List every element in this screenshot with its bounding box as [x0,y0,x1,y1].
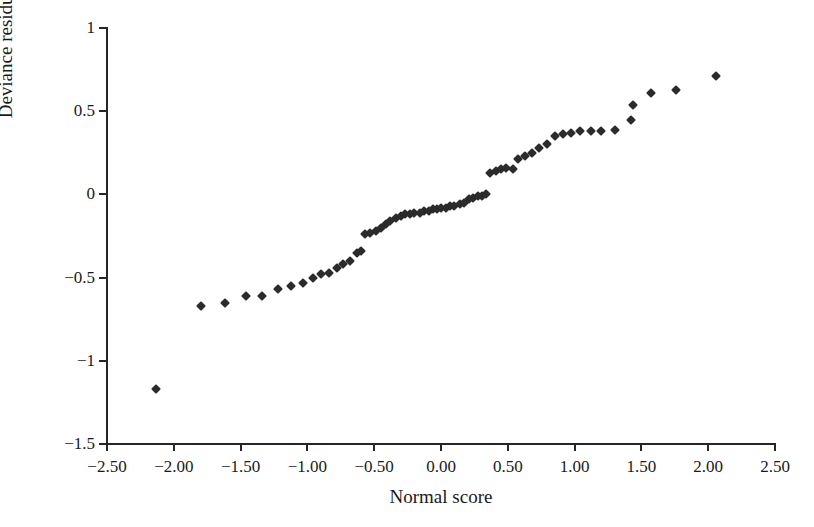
data-point [566,128,576,138]
x-tick-mark [507,444,509,451]
data-point [646,88,656,98]
y-tick-label: 0.5 [51,102,95,119]
x-tick-label: 1.50 [606,458,676,475]
y-tick-mark [99,27,106,29]
x-tick-label: 0.50 [473,458,543,475]
x-tick-mark [173,444,175,451]
data-point [558,130,568,140]
x-tick-label: −2.00 [139,458,209,475]
deviance-residual-qq-plot: −1.5−1−0.500.51 −2.50−2.00−1.50−1.00−0.5… [0,0,814,527]
data-point [220,298,230,308]
x-tick-mark [306,444,308,451]
data-point [610,125,620,135]
y-axis-title: Deviance residual [0,0,15,150]
y-tick-mark [99,110,106,112]
data-point [575,126,585,136]
y-tick-mark [99,193,106,195]
y-tick-label: 0 [51,185,95,202]
y-tick-label: −1 [51,352,95,369]
data-point [711,71,721,81]
y-tick-label: 1 [51,19,95,36]
x-tick-mark [240,444,242,451]
y-tick-mark [99,443,106,445]
x-tick-label: −1.50 [206,458,276,475]
x-tick-label: 2.50 [740,458,810,475]
x-tick-mark [373,444,375,451]
x-tick-mark [440,444,442,451]
data-point [596,126,606,136]
x-tick-label: −1.00 [272,458,342,475]
data-point [257,291,267,301]
data-point [151,384,161,394]
x-tick-mark [574,444,576,451]
x-tick-label: 0.00 [406,458,476,475]
x-tick-label: 2.00 [673,458,743,475]
x-tick-mark [640,444,642,451]
x-tick-label: −2.50 [72,458,142,475]
y-tick-mark [99,360,106,362]
x-axis-title: Normal score [107,487,775,506]
y-tick-mark [99,277,106,279]
data-point [508,164,518,174]
y-tick-label: −1.5 [51,435,95,452]
y-tick-label: −0.5 [51,269,95,286]
data-point [241,291,251,301]
data-point [273,284,283,294]
data-point [628,100,638,110]
x-tick-mark [707,444,709,451]
data-point [586,126,596,136]
data-point [196,301,206,311]
x-tick-label: 1.00 [540,458,610,475]
data-point [671,85,681,95]
x-tick-mark [774,444,776,451]
x-tick-label: −0.50 [339,458,409,475]
plot-area [107,28,775,444]
x-tick-mark [106,444,108,451]
data-point [286,281,296,291]
data-point [298,278,308,288]
data-point [626,115,636,125]
